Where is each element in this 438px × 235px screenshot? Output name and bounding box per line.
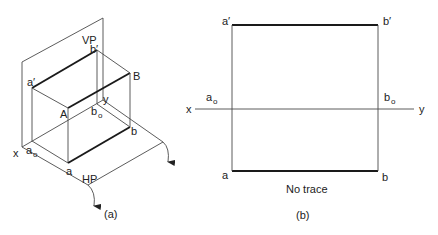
svg-text:o: o xyxy=(98,111,103,120)
label-ao-b: a o xyxy=(206,91,218,106)
label-x-b: x xyxy=(186,103,192,115)
no-trace-note: No trace xyxy=(286,183,328,195)
figure-a-pictorial: VP b′ B a′ A y b o b x a o a HP (a) xyxy=(13,18,168,220)
label-A: A xyxy=(60,108,68,120)
hp-rotation-arrow-left xyxy=(88,185,94,206)
projector-a-prime-A xyxy=(32,88,68,108)
label-b-prime-b: b′ xyxy=(383,15,391,27)
front-view-line-ab-prime xyxy=(32,50,97,88)
svg-text:o: o xyxy=(213,97,218,106)
projector-box xyxy=(32,50,130,163)
label-a-a: a xyxy=(66,165,73,177)
projector-b-prime-B xyxy=(97,50,130,73)
label-x-a: x xyxy=(13,147,19,159)
orthographic-projection-diagram: VP b′ B a′ A y b o b x a o a HP (a) a′ b… xyxy=(0,0,438,235)
label-bo-b: b o xyxy=(384,91,396,106)
label-y-a: y xyxy=(103,93,109,105)
label-ao-a: a o xyxy=(26,144,38,159)
svg-text:b: b xyxy=(91,105,97,117)
label-B: B xyxy=(133,70,140,82)
hp-front-edge xyxy=(88,142,163,185)
caption-b: (b) xyxy=(296,209,309,221)
label-b-b: b xyxy=(382,171,388,183)
hp-rotation-arrow-right xyxy=(163,142,168,162)
label-a-b: a xyxy=(222,169,229,181)
svg-text:a: a xyxy=(206,91,213,103)
figure-b-orthographic: a′ b′ a o b o x y a b No trace (b) xyxy=(186,15,425,221)
svg-text:b: b xyxy=(384,91,390,103)
svg-text:o: o xyxy=(33,150,38,159)
svg-text:o: o xyxy=(391,97,396,106)
label-y-b: y xyxy=(419,103,425,115)
label-b-a: b xyxy=(131,125,137,137)
svg-text:a: a xyxy=(26,144,33,156)
top-view-line-ab xyxy=(68,127,130,163)
label-a-prime-a: a′ xyxy=(27,76,35,88)
label-b-prime-a: b′ xyxy=(90,43,98,55)
caption-a: (a) xyxy=(104,208,117,220)
label-a-prime-b: a′ xyxy=(222,15,230,27)
label-hp: HP xyxy=(82,173,97,185)
